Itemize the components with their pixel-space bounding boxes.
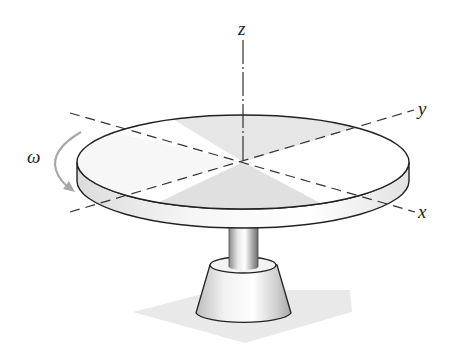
z-axis-label: z: [237, 18, 246, 39]
disc: [60, 108, 420, 228]
omega-label: ω: [27, 146, 40, 167]
shaft: [229, 226, 258, 270]
x-axis-label: x: [417, 201, 427, 222]
turntable-diagram: z y x ω: [0, 0, 451, 352]
y-axis-label: y: [416, 98, 427, 119]
diagram-canvas: z y x ω: [0, 0, 451, 352]
